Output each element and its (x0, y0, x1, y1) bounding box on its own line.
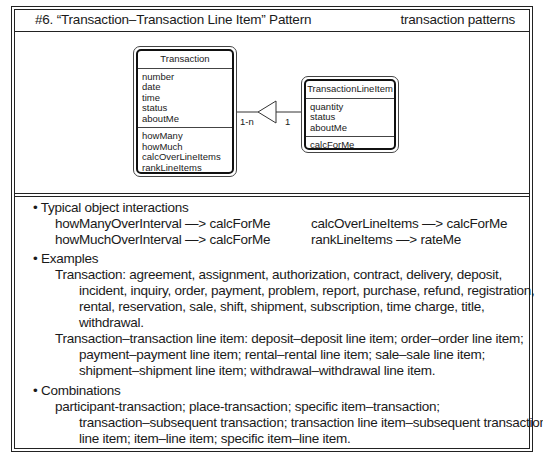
class-diagram: Transaction number date time status abou… (15, 32, 529, 195)
multiplicity-part: 1 (285, 116, 290, 127)
example-line: Transaction–transaction line item: depos… (55, 331, 524, 347)
pattern-category: transaction patterns (400, 12, 515, 27)
interaction-item: rankLineItems —> rateMe (311, 232, 461, 248)
interaction-item: howManyOverInterval —> calcForMe (55, 216, 270, 232)
class-attributes: quantity status aboutMe (306, 99, 394, 138)
example-line: Transaction: agreement, assignment, auth… (55, 267, 502, 283)
interaction-item: calcOverLineItems —> calcForMe (311, 216, 507, 232)
whole-part-connector (15, 32, 537, 195)
combinations-heading: • Combinations (33, 383, 121, 399)
combination-line: transaction–subsequent transaction; tran… (79, 415, 543, 431)
multiplicity-whole: 1-n (240, 116, 254, 127)
combination-line: line item; item–line item; specific item… (79, 431, 351, 447)
example-line: payment–payment line item; rental–rental… (79, 347, 485, 363)
interaction-item: howMuchOverInterval —> calcForMe (55, 232, 270, 248)
example-line: rental, reservation, sale, shift, shipme… (79, 299, 484, 315)
service: calcForMe (310, 140, 390, 150)
class-name: TransactionLineItem (306, 81, 394, 99)
interactions-heading: • Typical object interactions (33, 200, 189, 216)
example-line: withdrawal. (79, 315, 144, 331)
examples-heading: • Examples (33, 251, 98, 267)
combination-line: participant-transaction; place-transacti… (55, 399, 440, 415)
pattern-card: #6. “Transaction–Transaction Line Item” … (11, 6, 533, 452)
class-transaction-line-item[interactable]: TransactionLineItem quantity status abou… (301, 76, 399, 153)
whole-part-triangle-icon (258, 101, 276, 123)
pattern-header: #6. “Transaction–Transaction Line Item” … (15, 10, 529, 32)
example-line: incident, inquiry, order, payment, probl… (79, 283, 535, 299)
attribute: status (310, 112, 390, 123)
pattern-title: #6. “Transaction–Transaction Line Item” … (35, 12, 311, 27)
class-services: calcForMe rateMe (306, 137, 394, 150)
example-line: shipment–shipment line item; withdrawal–… (79, 363, 435, 379)
attribute: aboutMe (310, 123, 390, 134)
section-divider (15, 193, 529, 197)
